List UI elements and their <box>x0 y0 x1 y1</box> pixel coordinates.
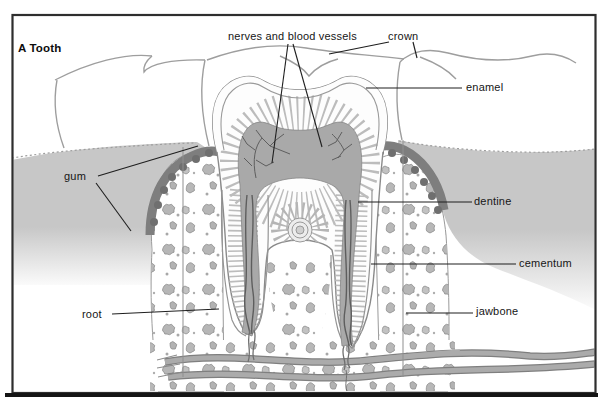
jawbone-bottom <box>150 340 455 391</box>
tooth-diagram-illustration <box>0 0 603 402</box>
label-jawbone: jawbone <box>476 305 518 318</box>
label-nerves-and-blood-vessels: nerves and blood vessels <box>228 30 357 43</box>
label-cementum: cementum <box>519 257 572 270</box>
jawbone-between-roots <box>266 252 332 348</box>
label-crown: crown <box>388 30 418 43</box>
leader-crown-left <box>329 42 389 54</box>
gingival-arc-over-crown <box>207 46 404 76</box>
figure-panel: A Tooth nerves and blood vessels crown e… <box>0 0 603 402</box>
right-neighbor-tooth <box>397 50 576 140</box>
root-center-rings <box>288 218 312 242</box>
label-enamel: enamel <box>466 81 503 94</box>
label-gum: gum <box>64 170 86 183</box>
figure-title: A Tooth <box>18 42 62 55</box>
label-dentine: dentine <box>474 195 512 208</box>
left-neighbor-tooth <box>55 55 209 148</box>
frame-bottom-shadow <box>5 393 598 397</box>
leader-crown-right <box>413 42 417 58</box>
label-root: root <box>82 308 102 321</box>
